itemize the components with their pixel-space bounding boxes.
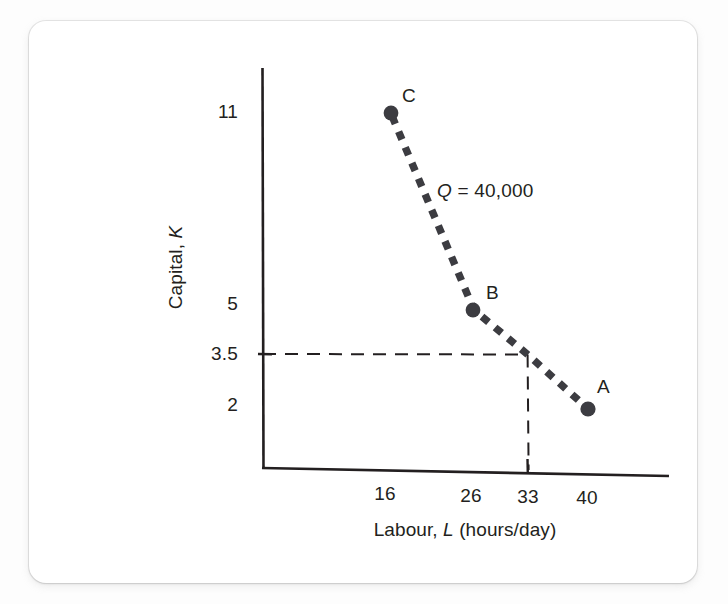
isoquant-curve <box>392 116 586 407</box>
x-axis-title-variable: L <box>443 519 454 540</box>
point-label-a: A <box>597 377 610 396</box>
ytick-label-11: 11 <box>196 102 238 121</box>
y-axis-title-prefix: Capital, <box>165 239 186 310</box>
isoquant-chart: 11 5 3.5 2 16 26 33 40 Labour, L (hours/… <box>0 0 728 604</box>
guide-lines-group <box>263 354 529 470</box>
isoquant-label-value: = 40,000 <box>452 180 534 201</box>
y-axis-title: Capital, K <box>166 208 185 328</box>
xtick-label-26: 26 <box>446 486 496 505</box>
point-label-b: B <box>486 283 499 302</box>
ytick-label-3-5: 3.5 <box>186 344 238 363</box>
figure-root: 11 5 3.5 2 16 26 33 40 Labour, L (hours/… <box>0 0 728 604</box>
axes-group <box>262 68 669 476</box>
isoquant-curve-group <box>392 116 586 407</box>
data-point-b <box>466 303 481 318</box>
vertical-guide-line <box>528 355 529 471</box>
horizontal-guide-line <box>263 354 528 355</box>
point-label-c: C <box>402 86 416 105</box>
x-axis-title-prefix: Labour, <box>374 519 443 540</box>
x-axis-line <box>262 468 669 476</box>
ytick-label-2: 2 <box>196 395 238 414</box>
isoquant-label-variable: Q <box>437 180 452 201</box>
data-point-c <box>384 106 399 121</box>
xtick-label-33: 33 <box>503 487 553 506</box>
data-point-markers-group <box>384 106 596 417</box>
chart-canvas <box>0 0 728 604</box>
ytick-label-5: 5 <box>196 294 238 313</box>
xtick-label-40: 40 <box>562 488 612 507</box>
y-axis-title-variable: K <box>165 226 186 239</box>
tick-marks-group <box>258 354 528 474</box>
y-axis-line <box>263 68 264 469</box>
data-point-a <box>580 401 595 416</box>
x-axis-title: Labour, L (hours/day) <box>330 520 600 539</box>
x-axis-title-suffix: (hours/day) <box>454 519 557 540</box>
xtick-label-16: 16 <box>360 484 410 503</box>
isoquant-label: Q = 40,000 <box>437 181 534 200</box>
